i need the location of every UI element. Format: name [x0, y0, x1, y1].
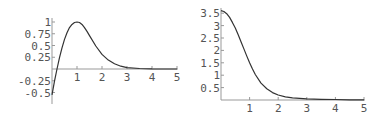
line-chart-left: 1234510.750.50.25-0.25-0.5 — [0, 0, 190, 120]
data-line — [52, 22, 177, 95]
y-tick-label: 2.5 — [200, 32, 220, 45]
y-tick-label: 1.5 — [200, 57, 220, 70]
y-tick-label: -0.5 — [25, 87, 52, 100]
x-tick-label: 2 — [275, 102, 282, 115]
y-tick-label: 0.5 — [200, 82, 220, 95]
y-tick-label: 0.25 — [25, 51, 52, 64]
x-tick-label: 3 — [124, 71, 131, 84]
x-tick-label: 4 — [149, 71, 156, 84]
y-tick-label: 2 — [213, 44, 220, 57]
y-tick-label: 1 — [213, 69, 220, 82]
data-line — [221, 11, 364, 100]
x-tick-label: 4 — [332, 102, 339, 115]
y-tick-label: 3 — [213, 20, 220, 33]
line-chart-right: 123453.532.521.510.5 — [190, 0, 381, 120]
x-tick-label: 3 — [303, 102, 310, 115]
chart-left: 1234510.750.50.25-0.25-0.5 — [0, 0, 190, 120]
x-tick-label: 1 — [246, 102, 253, 115]
x-tick-label: 1 — [74, 71, 81, 84]
y-tick-label: 3.5 — [200, 7, 220, 20]
x-tick-label: 5 — [361, 102, 368, 115]
chart-right: 123453.532.521.510.5 — [190, 0, 381, 120]
x-tick-label: 2 — [99, 71, 106, 84]
x-tick-label: 5 — [174, 71, 181, 84]
